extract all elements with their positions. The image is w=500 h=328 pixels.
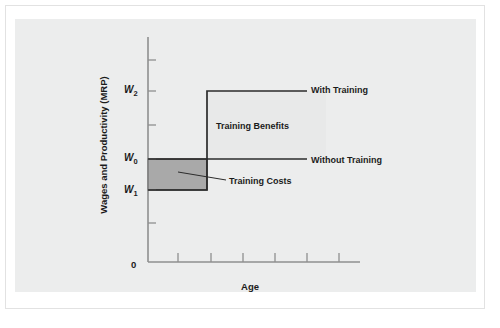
- y-axis-title-wrapper: Wages and Productivity (MRP): [95, 60, 111, 230]
- y-axis-title: Wages and Productivity (MRP): [98, 76, 109, 213]
- y-tick-label-w1: W1: [124, 185, 138, 198]
- with-training-annotation: With Training: [311, 85, 368, 95]
- origin-label: 0: [131, 259, 136, 270]
- y-tick-label-w2: W2: [124, 85, 138, 98]
- training-costs-region: [148, 159, 207, 190]
- y-tick-label-w0: W0: [124, 153, 138, 166]
- without-training-annotation: Without Training: [311, 155, 382, 165]
- training-benefits-annotation: Training Benefits: [216, 121, 289, 131]
- x-axis-title: Age: [195, 281, 305, 292]
- figure-page: Wages and Productivity (MRP) Age 0 W2 W0…: [0, 0, 500, 328]
- chart-canvas: [0, 0, 500, 328]
- w2-subscript: 2: [133, 89, 137, 98]
- w0-subscript: 0: [133, 157, 137, 166]
- training-costs-annotation: Training Costs: [229, 176, 292, 186]
- w1-subscript: 1: [133, 189, 137, 198]
